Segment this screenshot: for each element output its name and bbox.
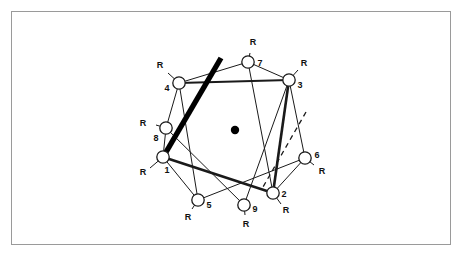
- node-circle-8: [160, 122, 172, 134]
- node-circle-7: [242, 56, 254, 68]
- dashed-stroke-group: [263, 112, 306, 187]
- node-number-label-4: 4: [164, 84, 169, 93]
- bold-stroke-group: [162, 58, 221, 159]
- node-number-label-1: 1: [164, 166, 169, 175]
- substituent-label-8: R: [140, 119, 147, 128]
- substituent-label-7: R: [250, 38, 257, 47]
- bond-3-6: [289, 80, 305, 158]
- node-number-label-5: 5: [206, 201, 211, 210]
- node-circle-4: [173, 77, 185, 89]
- substituent-label-3: R: [301, 59, 308, 68]
- node-number-label-8: 8: [153, 134, 158, 143]
- medium-bond-group: [179, 80, 289, 83]
- substituent-label-4: R: [157, 61, 164, 70]
- bond-1-2: [163, 157, 273, 193]
- dashed-plane-line: [263, 112, 306, 187]
- node-circle-6: [299, 152, 311, 164]
- node-number-label-6: 6: [314, 151, 319, 160]
- substituent-label-2: R: [283, 206, 290, 215]
- node-circle-3: [283, 74, 295, 86]
- bond-8-9: [166, 128, 244, 205]
- substituent-label-1: R: [140, 168, 147, 177]
- figure-root: 1R2R3R4R5R6R7R8R9R: [0, 0, 466, 265]
- bond-3-2: [273, 80, 289, 193]
- node-circle-2: [267, 187, 279, 199]
- substituent-label-9: R: [243, 220, 250, 229]
- diagram-canvas: [0, 0, 466, 265]
- node-circle-5: [192, 194, 204, 206]
- substituent-label-5: R: [185, 213, 192, 222]
- node-number-label-2: 2: [281, 190, 286, 199]
- node-number-label-7: 7: [257, 59, 262, 68]
- bond-4-3: [179, 80, 289, 83]
- center-dot: [231, 126, 239, 134]
- substituent-label-6: R: [319, 167, 326, 176]
- node-circle-1: [157, 151, 169, 163]
- bold-plane-line: [162, 58, 221, 159]
- node-number-label-9: 9: [252, 205, 257, 214]
- node-number-label-3: 3: [297, 81, 302, 90]
- center-dot-group: [231, 126, 239, 134]
- bond-5-6: [198, 158, 305, 200]
- node-circle-9: [238, 199, 250, 211]
